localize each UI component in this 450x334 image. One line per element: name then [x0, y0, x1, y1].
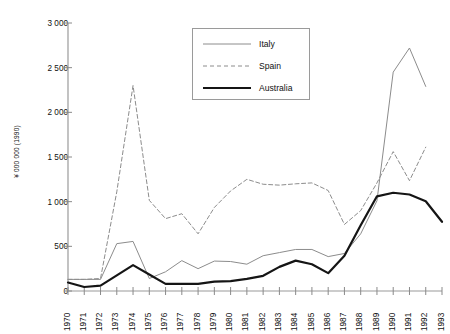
series-line-australia [68, 193, 442, 287]
legend-label-australia: Australia [259, 83, 292, 93]
legend-item-spain: Spain [201, 59, 305, 73]
legend-swatch-spain [201, 61, 253, 71]
chart-legend: Italy Spain Australia [192, 28, 310, 100]
legend-label-spain: Spain [259, 61, 281, 71]
legend-swatch-australia [201, 83, 253, 93]
legend-item-australia: Australia [201, 81, 305, 95]
legend-swatch-italy [201, 39, 253, 49]
line-chart: ¥ 000 000 (1990) 05001 0001 5002 0002 50… [0, 0, 450, 334]
series-line-spain [68, 86, 426, 280]
legend-item-italy: Italy [201, 37, 305, 51]
legend-label-italy: Italy [259, 39, 275, 49]
